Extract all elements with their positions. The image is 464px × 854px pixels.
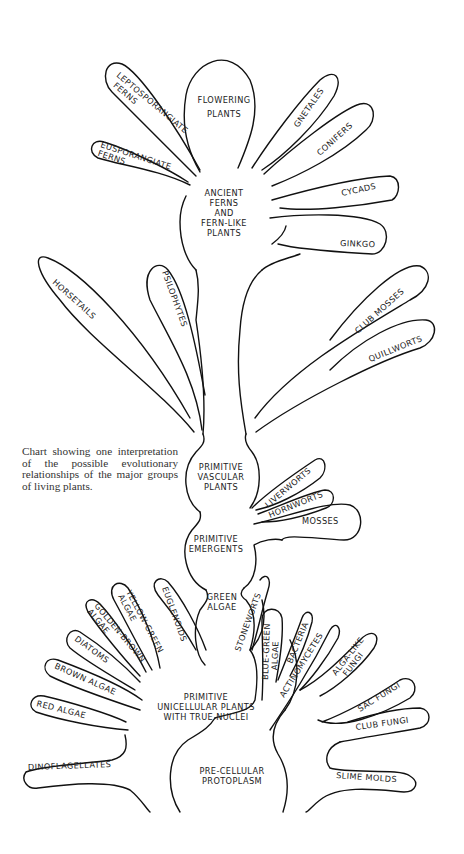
svg-text:VASCULAR: VASCULAR bbox=[198, 472, 245, 482]
svg-text:FERN-LIKE: FERN-LIKE bbox=[201, 218, 247, 228]
label-ancient-ferns: ANCIENT FERNS AND FERN-LIKE PLANTS bbox=[201, 188, 247, 238]
svg-text:AND: AND bbox=[214, 208, 233, 218]
label-quillworts: QUILLWORTS bbox=[367, 333, 424, 364]
svg-text:GREEN: GREEN bbox=[207, 592, 238, 602]
svg-text:PROTOPLASM: PROTOPLASM bbox=[202, 776, 262, 786]
svg-text:PRIMITIVE: PRIMITIVE bbox=[194, 534, 238, 544]
svg-text:PRIMITIVE: PRIMITIVE bbox=[199, 462, 243, 472]
label-red-algae: RED ALGAE bbox=[36, 698, 88, 720]
label-diatoms: DIATOMS bbox=[73, 634, 111, 666]
label-sac-fungi: SAC FUNGI bbox=[356, 680, 402, 714]
label-cycads: CYCADS bbox=[340, 181, 377, 198]
svg-text:PRIMITIVE: PRIMITIVE bbox=[184, 692, 228, 702]
label-horsetails: HORSETAILS bbox=[51, 277, 98, 321]
svg-text:PRE-CELLULAR: PRE-CELLULAR bbox=[199, 766, 264, 776]
svg-text:ALGAE: ALGAE bbox=[269, 641, 280, 671]
svg-text:PLANTS: PLANTS bbox=[204, 482, 238, 492]
svg-text:ALGAE: ALGAE bbox=[207, 602, 236, 612]
branch-conifers-outline bbox=[264, 103, 373, 186]
svg-text:FERNS: FERNS bbox=[210, 198, 239, 208]
label-pre-cellular: PRE-CELLULAR PROTOPLASM bbox=[199, 766, 264, 786]
svg-text:PLANTS: PLANTS bbox=[207, 109, 241, 119]
trunk-pre-cellular-outline bbox=[170, 710, 287, 812]
svg-text:EMERGENTS: EMERGENTS bbox=[189, 544, 244, 554]
label-euglenoids: EUGLENOIDS bbox=[160, 585, 189, 643]
label-club-mosses: CLUB MOSSES bbox=[353, 286, 406, 335]
label-primitive-emergents: PRIMITIVE EMERGENTS bbox=[189, 534, 244, 554]
svg-text:UNICELLULAR PLANTS: UNICELLULAR PLANTS bbox=[157, 702, 255, 712]
branch-quillworts-outline bbox=[256, 320, 435, 432]
branch-cycads-outline bbox=[272, 176, 399, 209]
label-green-algae: GREEN ALGAE bbox=[207, 592, 238, 612]
plant-evolution-tree: PRE-CELLULAR PROTOPLASM PRIMITIVE UNICEL… bbox=[0, 0, 464, 854]
label-conifers: CONIFERS bbox=[315, 120, 355, 157]
trunk-stem-outline bbox=[196, 270, 262, 434]
label-psilophytes: PSILOPHYTES bbox=[160, 269, 190, 328]
label-unicellular: PRIMITIVE UNICELLULAR PLANTS WITH TRUE N… bbox=[157, 692, 255, 722]
svg-text:PLANTS: PLANTS bbox=[207, 228, 241, 238]
branch-actinomycetes-outline bbox=[270, 625, 339, 730]
svg-text:ANCIENT: ANCIENT bbox=[205, 188, 245, 198]
branch-dinoflagellates-outline bbox=[24, 735, 150, 812]
svg-text:WITH TRUE NUCLEI: WITH TRUE NUCLEI bbox=[163, 712, 248, 722]
label-mosses: MOSSES bbox=[302, 516, 339, 526]
label-flowering-plants: FLOWERING PLANTS bbox=[198, 95, 251, 119]
svg-text:FLOWERING: FLOWERING bbox=[198, 95, 251, 105]
label-ginkgo: GINKGO bbox=[340, 238, 376, 249]
label-dinoflagellates: DINOFLAGELLATES bbox=[28, 759, 112, 772]
figure-caption: Chart showing one interpretation of the … bbox=[22, 446, 178, 492]
svg-text:LEPTOSPORANGIATE: LEPTOSPORANGIATE bbox=[115, 70, 190, 136]
label-primitive-vascular: PRIMITIVE VASCULAR PLANTS bbox=[198, 462, 245, 492]
